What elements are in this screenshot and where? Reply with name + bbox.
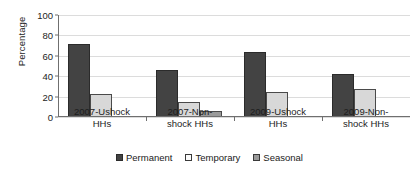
legend-swatch-seasonal-icon: [253, 154, 260, 161]
legend-item: Permanent: [116, 152, 172, 163]
y-tick-label: 80: [42, 30, 53, 41]
bar-group: [332, 15, 398, 117]
y-axis-title: Percentage: [16, 0, 27, 87]
bar-chart: Percentage 020406080100 2007-UshockHHs20…: [0, 0, 419, 174]
legend-swatch-permanent-icon: [116, 154, 123, 161]
legend-label: Seasonal: [263, 152, 303, 163]
bar-group: [68, 15, 134, 117]
legend-label: Temporary: [195, 152, 240, 163]
legend-item: Seasonal: [253, 152, 303, 163]
x-axis-label: 2009-UshockHHs: [234, 106, 322, 129]
y-tick-label: 40: [42, 71, 53, 82]
bar-groups: [58, 15, 410, 117]
x-axis-label: 2007-Non-shock HHs: [146, 106, 234, 129]
bar-group: [156, 15, 222, 117]
y-axis-line: [58, 15, 59, 117]
y-tick-label: 100: [37, 10, 53, 21]
y-tick-label: 20: [42, 91, 53, 102]
y-tick-label: 60: [42, 50, 53, 61]
bar-group: [244, 15, 310, 117]
legend-item: Temporary: [185, 152, 240, 163]
chart-legend: PermanentTemporarySeasonal: [0, 152, 419, 163]
x-axis-label: 2009-Non-shock HHs: [322, 106, 410, 129]
legend-label: Permanent: [126, 152, 172, 163]
y-tick-label: 0: [48, 112, 53, 123]
legend-swatch-temporary-icon: [185, 154, 192, 161]
x-axis-label: 2007-UshockHHs: [58, 106, 146, 129]
plot-area: 020406080100: [58, 15, 410, 117]
